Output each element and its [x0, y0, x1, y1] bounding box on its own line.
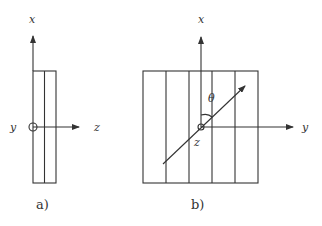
panel-b: x y z θ b)	[143, 13, 309, 212]
x-axis-label: x	[29, 13, 36, 26]
panel-a-caption: a)	[36, 197, 49, 212]
z-axis-label: z	[93, 121, 100, 134]
z-axis-label: z	[193, 136, 200, 149]
panel-a: x z y a)	[9, 13, 100, 212]
diagram-canvas: x z y a) x y z θ b)	[0, 0, 322, 226]
panel-b-caption: b)	[191, 197, 204, 212]
theta-angle-arc	[201, 114, 212, 117]
y-axis-label: y	[9, 121, 17, 134]
x-axis-label: x	[198, 13, 205, 26]
theta-label: θ	[208, 92, 215, 105]
direction-vector-arrow	[163, 86, 245, 164]
y-axis-label: y	[301, 121, 309, 134]
